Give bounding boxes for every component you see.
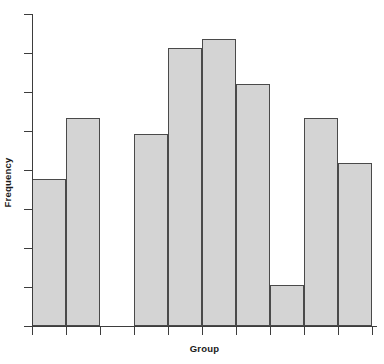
- x-axis-tick: [236, 327, 237, 335]
- y-axis-tick: [24, 14, 32, 15]
- y-axis-tick: [24, 287, 32, 288]
- x-axis-tick: [304, 327, 305, 335]
- x-axis-tick: [372, 327, 373, 335]
- y-axis-line: [32, 14, 33, 326]
- x-axis-tick: [202, 327, 203, 335]
- histogram-chart: Frequency Group: [0, 0, 384, 364]
- x-axis-tick: [32, 327, 33, 335]
- histogram-bar: [338, 163, 372, 326]
- x-axis-title-label: Group: [190, 343, 220, 354]
- y-axis-tick: [24, 248, 32, 249]
- y-axis-tick: [24, 209, 32, 210]
- y-axis-tick: [24, 326, 32, 327]
- y-axis-title: Frequency: [0, 0, 16, 364]
- y-axis-tick: [24, 53, 32, 54]
- x-axis-line: [32, 326, 377, 327]
- y-axis-tick: [24, 131, 32, 132]
- histogram-bar: [66, 118, 100, 326]
- x-axis-tick: [66, 327, 67, 335]
- histogram-bar: [32, 179, 66, 326]
- x-axis-tick: [134, 327, 135, 335]
- histogram-bar: [202, 39, 236, 326]
- y-axis-title-label: Frequency: [3, 157, 14, 207]
- histogram-bar: [236, 84, 270, 326]
- x-axis-tick: [100, 327, 101, 335]
- histogram-bar: [134, 134, 168, 326]
- histogram-bar: [270, 285, 304, 326]
- x-axis-tick: [168, 327, 169, 335]
- y-axis-tick: [24, 170, 32, 171]
- plot-area: [32, 14, 372, 326]
- histogram-bar: [304, 118, 338, 326]
- histogram-bar: [168, 48, 202, 326]
- y-axis-tick: [24, 92, 32, 93]
- x-axis-tick: [270, 327, 271, 335]
- x-axis-tick: [338, 327, 339, 335]
- x-axis-title: Group: [32, 343, 377, 354]
